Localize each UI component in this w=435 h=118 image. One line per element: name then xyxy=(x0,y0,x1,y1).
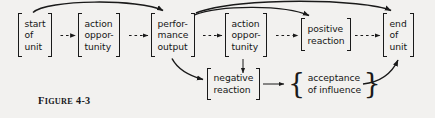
node-line: unit xyxy=(25,41,43,53)
node-line: action xyxy=(232,18,260,30)
node-line: reaction xyxy=(308,35,345,47)
node-line: output xyxy=(158,41,188,53)
curly-brace-left-icon: { xyxy=(288,73,305,96)
node-line: tunity xyxy=(85,41,112,53)
node-text-block: end of unit xyxy=(387,18,410,53)
bracket-left-icon xyxy=(151,13,155,57)
bracket-right-icon xyxy=(263,13,267,57)
node-line: of influence xyxy=(308,84,361,96)
node-line: oppor- xyxy=(85,29,114,41)
bracket-right-icon xyxy=(256,68,260,100)
node-line: mance xyxy=(158,29,189,41)
node-line: start xyxy=(25,18,46,30)
node-text-block: action oppor- tunity xyxy=(82,18,116,53)
node-text-block: negative reaction xyxy=(211,72,256,95)
bracket-right-icon xyxy=(48,13,52,57)
node-line: tunity xyxy=(232,41,259,53)
caption-word: IGURE xyxy=(45,97,73,106)
edge-performance-to-negative-curve xyxy=(172,59,203,80)
node-line: of xyxy=(25,29,34,41)
figure-container: start of unit action oppor- tunity perfo… xyxy=(0,0,435,118)
curly-brace-right-icon: } xyxy=(364,73,381,96)
bracket-left-icon xyxy=(225,13,229,57)
node-line: end xyxy=(390,18,407,30)
node-line: negative xyxy=(214,72,254,84)
node-text-block: action oppor- tunity xyxy=(229,18,263,53)
bracket-left-icon xyxy=(18,13,22,57)
figure-caption: FIGURE4-3 xyxy=(38,95,90,106)
node-positive-reaction: positive reaction xyxy=(301,18,351,51)
bracket-left-icon xyxy=(78,13,82,57)
node-line: oppor- xyxy=(232,29,261,41)
node-text-block: positive reaction xyxy=(305,23,347,46)
node-line: action xyxy=(85,18,113,30)
bracket-right-icon xyxy=(116,13,120,57)
node-text-block: acceptance of influence xyxy=(305,72,363,95)
node-negative-reaction: negative reaction xyxy=(207,68,260,100)
bracket-right-icon xyxy=(191,13,195,57)
node-line: acceptance xyxy=(308,72,360,84)
node-start-of-unit: start of unit xyxy=(18,13,52,57)
node-action-opportunity-2: action oppor- tunity xyxy=(225,13,267,57)
node-action-opportunity-1: action oppor- tunity xyxy=(78,13,120,57)
caption-number: 4-3 xyxy=(76,95,90,106)
bracket-right-icon xyxy=(347,18,351,51)
node-line: unit xyxy=(390,41,408,53)
bracket-right-icon xyxy=(410,13,414,57)
node-text-block: start of unit xyxy=(22,18,48,53)
bracket-left-icon xyxy=(301,18,305,51)
node-end-of-unit: end of unit xyxy=(383,13,414,57)
bracket-left-icon xyxy=(207,68,211,100)
node-line: perfor- xyxy=(158,18,188,30)
bracket-left-icon xyxy=(383,13,387,57)
node-acceptance-of-influence: { acceptance of influence } xyxy=(288,68,381,100)
node-line: reaction xyxy=(214,84,251,96)
caption-prefix: F xyxy=(38,95,45,106)
edge-start-to-performance-curve xyxy=(33,2,163,12)
node-line: of xyxy=(390,29,399,41)
node-line: positive xyxy=(308,23,344,35)
node-text-block: perfor- mance output xyxy=(155,18,191,53)
node-performance-output: perfor- mance output xyxy=(151,13,195,57)
